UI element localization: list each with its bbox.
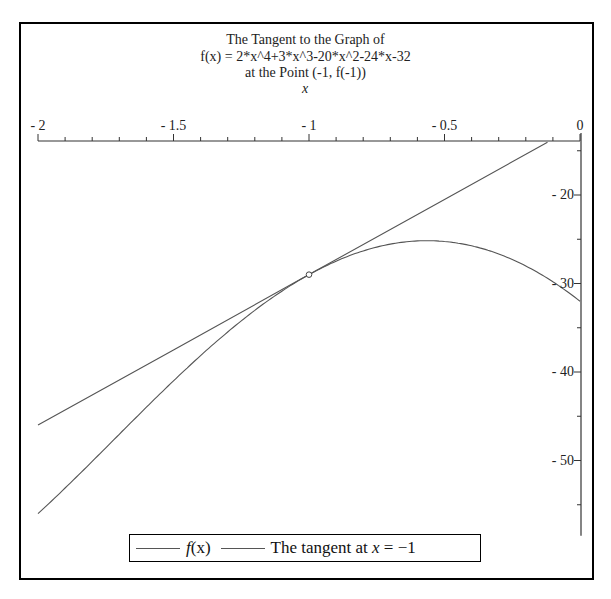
- legend-label-tangent-var: x: [372, 538, 380, 558]
- y-tick-label: - 30: [534, 276, 574, 292]
- legend-item-fx: f(x): [130, 538, 211, 558]
- x-tick-label: 0: [577, 118, 584, 134]
- legend-swatch-tangent: [221, 548, 265, 549]
- legend: f(x) The tangent at x = −1: [129, 534, 481, 562]
- legend-label-fx-arg: (x): [191, 538, 211, 558]
- x-tick-label: - 2: [30, 118, 45, 134]
- legend-swatch-fx: [136, 548, 180, 549]
- legend-item-tangent: The tangent at x = −1: [215, 538, 416, 558]
- y-tick-label: - 50: [534, 453, 574, 469]
- plot-frame: [19, 22, 594, 580]
- x-axis-label: x: [302, 81, 308, 97]
- x-tick-label: - 1.5: [161, 118, 187, 134]
- legend-label-tangent-prefix: The tangent at: [271, 538, 373, 558]
- chart-title-line-3: at the Point (-1, f(-1)): [0, 65, 611, 81]
- y-tick-label: - 40: [534, 364, 574, 380]
- x-tick-label: - 1: [301, 118, 316, 134]
- legend-label-tangent-suffix: = −1: [380, 538, 416, 558]
- y-tick-label: - 20: [534, 187, 574, 203]
- x-tick-label: - 0.5: [432, 118, 458, 134]
- chart-title-line-2: f(x) = 2*x^4+3*x^3-20*x^2-24*x-32: [0, 49, 611, 65]
- chart-title-line-1: The Tangent to the Graph of: [0, 32, 611, 48]
